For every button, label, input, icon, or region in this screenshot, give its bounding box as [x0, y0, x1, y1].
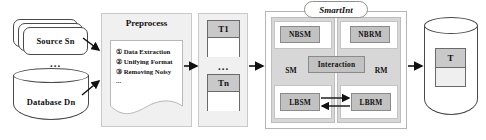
- table-t1-header: T1: [208, 21, 239, 38]
- table-tn[interactable]: Tn: [207, 74, 240, 111]
- preprocess-step-2: ② Unifying Format: [116, 57, 173, 67]
- node-interaction[interactable]: Interaction: [308, 56, 365, 73]
- node-interaction-label: Interaction: [318, 60, 356, 69]
- output-table-t[interactable]: T: [435, 48, 466, 87]
- smartint-sm-label: SM: [279, 67, 303, 75]
- database-cylinder[interactable]: Database Dn: [13, 68, 89, 123]
- database-cylinder-top: [13, 68, 89, 83]
- output-table-t-body: [436, 68, 465, 86]
- preprocess-step-3: ③ Removing Noisy: [116, 67, 171, 77]
- table-t1-label: T1: [218, 24, 229, 34]
- table-tn-body: [208, 92, 239, 111]
- smartint-rm-label: RM: [369, 67, 393, 75]
- table-tn-header: Tn: [208, 75, 239, 92]
- preprocess-step-1: ① Data Extraction: [116, 47, 170, 57]
- database-label: Database Dn: [13, 98, 89, 107]
- source-card-front[interactable]: Source Sn: [23, 27, 88, 55]
- source-stack-label: Source Sn: [36, 37, 74, 46]
- table-t1[interactable]: T1: [207, 20, 240, 57]
- preprocess-document: ① Data Extraction ② Unifying Format ③ Re…: [110, 40, 183, 115]
- preprocess-document-wave: [110, 95, 183, 117]
- smartint-title-pill: SmartInt: [304, 1, 368, 18]
- node-lbsm[interactable]: LBSM: [280, 93, 320, 111]
- output-cylinder[interactable]: T: [424, 17, 478, 123]
- sources-group: Source Sn ... Database Dn: [0, 0, 100, 140]
- node-lbrm-label: LBRM: [360, 98, 383, 107]
- node-nbsm[interactable]: NBSM: [280, 26, 320, 43]
- table-tn-label: Tn: [218, 78, 229, 88]
- node-lbrm[interactable]: LBRM: [351, 93, 391, 111]
- preprocess-steps-more: ...: [116, 77, 121, 87]
- tables-ellipsis: ...: [207, 61, 240, 72]
- node-nbrm-label: NBRM: [358, 30, 381, 39]
- diagram-canvas: Source Sn ... Database Dn Preprocess ① D…: [0, 0, 486, 140]
- node-lbsm-label: LBSM: [289, 98, 311, 107]
- smartint-title: SmartInt: [319, 5, 353, 15]
- node-nbrm[interactable]: NBRM: [350, 26, 390, 43]
- output-table-t-label: T: [447, 53, 453, 63]
- output-table-t-header: T: [436, 49, 465, 68]
- node-nbsm-label: NBSM: [289, 30, 311, 39]
- output-cylinder-top: [424, 17, 478, 34]
- preprocess-title: Preprocess: [102, 19, 191, 28]
- table-t1-body: [208, 38, 239, 57]
